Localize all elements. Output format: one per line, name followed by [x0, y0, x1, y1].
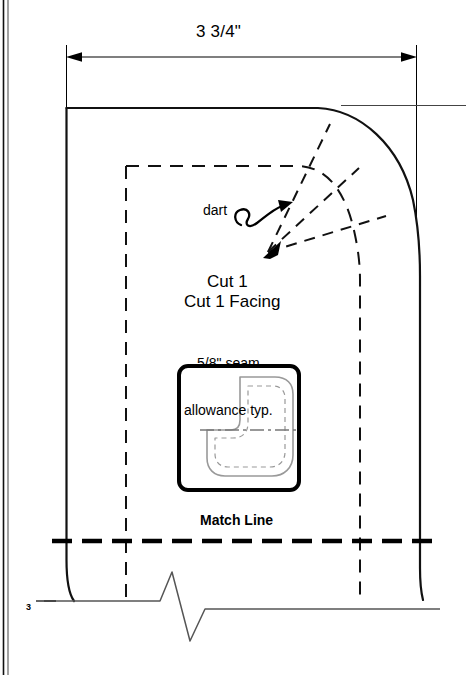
dimension-arrow-left: [66, 52, 82, 62]
dimension-label: 3 3/4": [196, 22, 241, 41]
cut-1-label: Cut 1: [207, 272, 248, 291]
page-number: 3: [26, 602, 31, 612]
dart-callout-arrow: [235, 200, 293, 226]
dimension-arrow-right: [401, 52, 417, 62]
seam-allowance-label: 5/8" seam allowance typ.: [184, 325, 273, 450]
match-line-label: Match Line: [200, 513, 273, 529]
page-left-border: [4, 0, 9, 675]
dart-lines: [268, 124, 386, 252]
seam-allowance-line-2: allowance typ.: [184, 403, 273, 419]
seam-allowance-line-1: 5/8" seam: [184, 356, 273, 372]
pattern-page: 3 3/4" dart Cut 1 Cut 1 Facing 5/8" seam…: [0, 0, 466, 675]
dart-label: dart: [203, 203, 227, 219]
break-line: [36, 572, 440, 641]
cut-1-facing-label: Cut 1 Facing: [184, 292, 280, 311]
